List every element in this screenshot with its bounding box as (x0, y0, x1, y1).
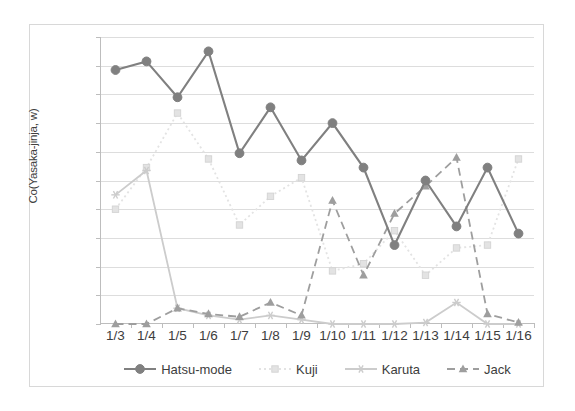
data-point-marker (235, 149, 244, 158)
data-point-marker (483, 163, 492, 172)
data-point-marker (142, 57, 151, 66)
series-kuji (112, 110, 521, 279)
legend-label: Kuji (296, 363, 318, 376)
data-point-marker (421, 176, 430, 185)
data-point-marker (391, 228, 397, 234)
data-point-marker (297, 156, 306, 165)
data-point-marker (136, 365, 145, 374)
data-point-marker (357, 365, 365, 372)
data-point-marker (360, 261, 366, 267)
data-point-marker (272, 366, 278, 372)
x-tick-label: 1/15 (474, 328, 500, 343)
legend-item-hatsu-mode[interactable]: Hatsu-mode (123, 362, 232, 376)
data-point-marker (484, 242, 490, 248)
legend-label: Karuta (382, 363, 420, 376)
legend-swatch-square-icon (258, 362, 292, 376)
x-tick-label: 1/14 (443, 328, 469, 343)
legend-item-karuta[interactable]: Karuta (344, 362, 420, 376)
chart-figure: Co(Yasaka-jinja, w) 0.000.020.040.060.08… (0, 0, 575, 411)
x-tick-label: 1/6 (199, 328, 218, 343)
series-layer (100, 37, 534, 324)
data-point-marker (359, 271, 368, 279)
data-point-marker (174, 110, 180, 116)
data-point-marker (267, 193, 273, 199)
data-point-marker (266, 298, 275, 306)
data-point-marker (453, 245, 459, 251)
data-point-marker (359, 163, 368, 172)
y-tick-mark (96, 324, 101, 325)
data-point-marker (422, 272, 428, 278)
x-tick-label: 1/4 (137, 328, 156, 343)
x-tick-label: 1/5 (168, 328, 187, 343)
data-point-marker (204, 47, 213, 56)
data-point-marker (452, 153, 461, 161)
x-tick-label: 1/8 (261, 328, 280, 343)
data-point-marker (483, 309, 492, 317)
data-point-marker (514, 229, 523, 238)
x-tick-label: 1/3 (106, 328, 125, 343)
data-point-marker (515, 156, 521, 162)
y-axis-title: Co(Yasaka-jinja, w) (27, 71, 39, 241)
x-tick-label: 1/7 (230, 328, 249, 343)
x-tick-label: 1/12 (381, 328, 407, 343)
legend-item-kuji[interactable]: Kuji (258, 362, 318, 376)
data-point-marker (298, 174, 304, 180)
legend-label: Jack (484, 363, 511, 376)
x-tick-label: 1/9 (292, 328, 311, 343)
x-tick-mark (534, 323, 535, 328)
data-point-marker (297, 311, 306, 319)
series-line (116, 51, 519, 245)
data-point-marker (111, 66, 120, 75)
data-point-marker (266, 312, 274, 319)
x-tick-label: 1/16 (505, 328, 531, 343)
legend-swatch-circle-icon (123, 362, 157, 376)
series-jack (111, 153, 523, 327)
x-tick-label: 1/11 (351, 328, 376, 343)
x-tick-label: 1/13 (412, 328, 438, 343)
data-point-marker (390, 241, 399, 250)
data-point-marker (266, 103, 275, 112)
data-point-marker (205, 156, 211, 162)
data-point-marker (328, 119, 337, 128)
data-point-marker (173, 93, 182, 102)
series-hatsu-mode (111, 47, 523, 250)
data-point-marker (328, 196, 337, 204)
data-point-marker (236, 222, 242, 228)
legend-label: Hatsu-mode (161, 363, 232, 376)
x-tick-label: 1/10 (319, 328, 345, 343)
data-point-marker (329, 268, 335, 274)
data-point-marker (452, 222, 461, 231)
data-point-marker (112, 206, 118, 212)
legend-item-jack[interactable]: Jack (446, 362, 511, 376)
legend-swatch-triangle-icon (446, 362, 480, 376)
legend-swatch-star-icon (344, 362, 378, 376)
chart-legend: Hatsu-modeKujiKarutaJack (100, 362, 534, 376)
data-point-marker (514, 318, 523, 326)
plot-area: 0.000.020.040.060.080.100.120.140.160.18… (100, 37, 534, 324)
